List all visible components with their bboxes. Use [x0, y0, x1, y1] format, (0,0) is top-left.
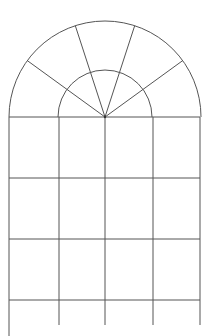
radial-mullion [27, 61, 105, 117]
radial-mullion [105, 26, 135, 117]
arched-window-diagram [0, 0, 212, 336]
arch-arcs [9, 21, 201, 117]
radial-mullion [75, 26, 105, 117]
sunburst-radials [27, 26, 182, 117]
vertical-mullions [9, 117, 200, 336]
center-hub [104, 116, 106, 118]
outer-arch [9, 21, 201, 117]
radial-mullion [105, 61, 183, 117]
